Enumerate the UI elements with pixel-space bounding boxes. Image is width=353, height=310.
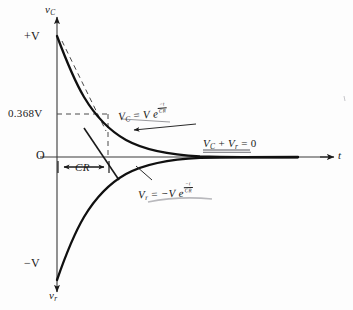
time-constant-label: CR — [75, 161, 90, 173]
equation-vc: VC = V e−tCR — [117, 102, 167, 124]
curve-vr — [57, 157, 298, 280]
origin-label: O — [36, 148, 45, 163]
figure-canvas — [0, 0, 353, 310]
tick-label-negative-peak: −V — [24, 256, 40, 271]
tick-label-tau-value: 0.368V — [8, 107, 43, 119]
sum-annotation: VC + Vr = 0 — [203, 137, 257, 151]
vc-equation-leader — [134, 124, 196, 130]
curve-vc — [57, 36, 298, 157]
rc-discharge-figure: vC +V 0.368V O CR VC = V e−tCR Vr = −V e… — [0, 0, 353, 310]
equation-vr: Vr = −V e−tCR — [138, 182, 193, 202]
axis-label-vc: vC — [45, 3, 55, 17]
tick-label-positive-peak: +V — [24, 29, 40, 44]
vr-equation-leader — [136, 166, 152, 180]
axis-label-vr: vr — [49, 289, 57, 303]
axis-label-t: t — [338, 149, 341, 161]
